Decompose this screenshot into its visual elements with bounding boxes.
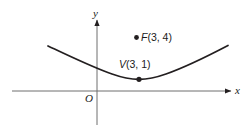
origin-label: O xyxy=(85,93,93,104)
vertex-coords: (3, 1) xyxy=(126,58,151,70)
focus-point-marker xyxy=(134,35,139,40)
focus-point-label: F(3, 4) xyxy=(141,32,172,43)
x-axis-label: x xyxy=(235,85,240,96)
parabola-figure: y x O F(3, 4) V(3, 1) xyxy=(0,0,248,132)
y-axis-label: y xyxy=(93,8,98,19)
focus-coords: (3, 4) xyxy=(147,31,172,43)
vertex-point-label: V(3, 1) xyxy=(119,59,151,70)
vertex-letter: V xyxy=(119,58,126,70)
vertex-point-marker xyxy=(136,77,141,82)
